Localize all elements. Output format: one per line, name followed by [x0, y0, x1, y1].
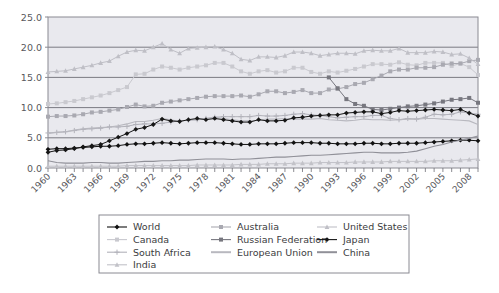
x-axis-tick-label: 1966	[82, 171, 105, 194]
data-marker	[353, 82, 357, 86]
data-marker	[423, 66, 427, 70]
data-marker	[292, 66, 296, 70]
x-axis-tick-label: 1975	[161, 171, 184, 194]
data-marker	[406, 68, 410, 72]
x-axis-tick-label: 2005	[424, 171, 447, 194]
data-marker	[441, 100, 445, 104]
data-marker	[72, 99, 76, 103]
x-axis-tick-label: 1972	[134, 171, 157, 194]
data-marker	[222, 61, 226, 65]
data-marker	[458, 97, 462, 101]
emissions-line-chart: 0.05.010.015.020.025.0196019631966196919…	[0, 0, 499, 293]
data-marker	[169, 66, 173, 70]
data-marker	[476, 58, 480, 62]
legend-label: Japan	[342, 234, 370, 245]
x-axis-tick-label: 1996	[345, 171, 368, 194]
data-marker	[160, 101, 164, 105]
data-marker	[99, 110, 103, 114]
data-marker	[186, 97, 190, 101]
data-marker	[125, 85, 129, 89]
x-axis-tick-label: 1960	[29, 171, 52, 194]
data-marker	[318, 91, 322, 95]
data-marker	[213, 61, 217, 65]
data-marker	[423, 103, 427, 107]
legend-label: India	[133, 259, 156, 270]
x-axis-tick-label: 1978	[187, 171, 210, 194]
data-marker	[81, 97, 85, 101]
data-marker	[274, 89, 278, 93]
data-marker	[64, 114, 68, 118]
y-axis-tick-label: 20.0	[21, 42, 42, 53]
data-marker	[204, 63, 208, 67]
x-axis-tick-label: 2002	[398, 171, 421, 194]
x-axis-tick-label: 1963	[55, 171, 78, 194]
data-marker	[230, 65, 234, 69]
data-marker	[257, 92, 261, 96]
data-marker	[362, 65, 366, 69]
data-marker	[151, 68, 155, 72]
data-marker	[397, 60, 401, 64]
x-axis-tick-label: 1990	[292, 171, 315, 194]
data-marker	[116, 107, 120, 111]
legend-label: Russian Federation	[237, 234, 327, 245]
data-marker	[344, 85, 348, 89]
x-axis-tick-label: 1987	[266, 171, 289, 194]
data-marker	[450, 98, 454, 102]
data-marker	[300, 66, 304, 70]
legend-label: China	[343, 247, 370, 258]
x-axis-tick-label: 1984	[240, 171, 263, 194]
data-marker	[406, 104, 410, 108]
data-marker	[239, 69, 243, 73]
data-marker	[178, 98, 182, 102]
chart-container: 0.05.010.015.020.025.0196019631966196919…	[0, 0, 499, 293]
data-marker	[309, 91, 313, 95]
y-axis-tick-label: 5.0	[27, 132, 42, 143]
y-axis-tick-label: 25.0	[21, 12, 42, 23]
data-marker	[476, 101, 480, 105]
data-marker	[327, 75, 331, 79]
data-marker	[309, 70, 313, 74]
data-marker	[353, 67, 357, 71]
data-marker	[195, 96, 199, 100]
data-marker	[169, 100, 173, 104]
y-axis-tick-label: 0.0	[27, 163, 42, 174]
data-marker	[379, 62, 383, 66]
legend-label: World	[133, 221, 160, 232]
legend-label: Canada	[133, 234, 169, 245]
data-marker	[379, 74, 383, 78]
data-marker	[107, 91, 111, 95]
data-marker	[219, 238, 223, 242]
data-marker	[134, 103, 138, 107]
data-marker	[222, 94, 226, 98]
data-marker	[441, 63, 445, 67]
data-marker	[388, 69, 392, 73]
data-marker	[219, 225, 223, 229]
data-marker	[257, 69, 261, 73]
y-axis-tick-label: 15.0	[21, 72, 42, 83]
legend-label: United States	[343, 221, 407, 232]
data-marker	[72, 113, 76, 117]
data-marker	[90, 110, 94, 114]
data-marker	[143, 104, 147, 108]
data-marker	[125, 105, 129, 109]
legend-label: South Africa	[133, 247, 191, 258]
data-marker	[467, 96, 471, 100]
data-marker	[283, 91, 287, 95]
data-marker	[327, 87, 331, 91]
data-marker	[134, 72, 138, 76]
data-marker	[415, 66, 419, 70]
data-marker	[248, 95, 252, 99]
data-marker	[432, 65, 436, 69]
legend-label: Australia	[237, 221, 279, 232]
data-marker	[115, 238, 119, 242]
legend-label: European Union	[237, 247, 313, 258]
data-marker	[397, 68, 401, 72]
x-axis-tick-label: 1993	[319, 171, 342, 194]
data-marker	[265, 89, 269, 93]
data-marker	[362, 104, 366, 108]
data-marker	[458, 62, 462, 66]
x-axis-tick-label: 1999	[371, 171, 394, 194]
data-marker	[239, 94, 243, 98]
data-marker	[46, 115, 50, 119]
data-marker	[195, 65, 199, 69]
